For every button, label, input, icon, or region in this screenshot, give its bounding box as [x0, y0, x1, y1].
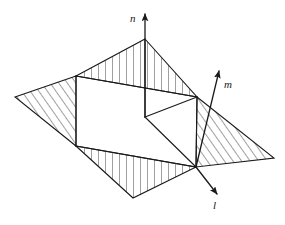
axis-label-l: l	[213, 200, 216, 211]
axis-label-m: m	[224, 79, 232, 90]
figure-container: n m l	[0, 0, 285, 225]
geometry-diagram	[0, 0, 285, 225]
region-right	[196, 97, 274, 167]
axis-l-line	[196, 167, 217, 194]
axis-label-n: n	[130, 13, 136, 24]
